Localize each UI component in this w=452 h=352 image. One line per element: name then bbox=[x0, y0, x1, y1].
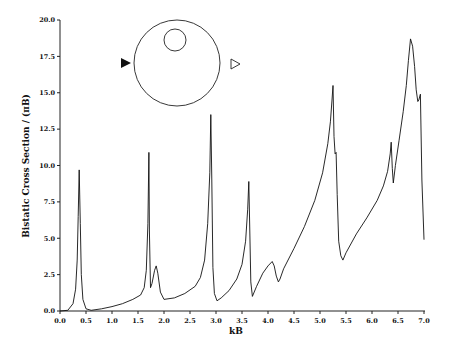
x-tick-label: 1.0 bbox=[106, 317, 118, 325]
y-tick-label: 12.5 bbox=[39, 125, 55, 133]
x-tick-label: 2.5 bbox=[184, 317, 196, 325]
x-tick-label: 0.5 bbox=[80, 317, 92, 325]
x-tick-label: 7.0 bbox=[418, 317, 430, 325]
incident-wave-marker-icon bbox=[121, 58, 131, 68]
outer-circle bbox=[134, 20, 220, 106]
x-tick-label: 6.5 bbox=[392, 317, 404, 325]
x-tick-label: 3.0 bbox=[210, 317, 222, 325]
chart: 0.02.55.07.510.012.515.017.520.0 0.00.51… bbox=[0, 0, 452, 352]
y-tick-label: 0.0 bbox=[44, 307, 56, 315]
inner-circle bbox=[164, 29, 186, 51]
y-tick-label: 17.5 bbox=[39, 53, 55, 61]
y-tick-label: 20.0 bbox=[39, 16, 55, 24]
x-tick-label: 4.5 bbox=[288, 317, 300, 325]
y-ticks: 0.02.55.07.510.012.515.017.520.0 bbox=[39, 16, 60, 315]
y-tick-label: 5.0 bbox=[44, 235, 56, 243]
scattered-wave-marker-icon bbox=[231, 59, 240, 69]
x-axis-label: kB bbox=[229, 326, 243, 336]
series-line bbox=[60, 39, 424, 311]
x-tick-label: 4.0 bbox=[262, 317, 274, 325]
x-tick-label: 5.0 bbox=[314, 317, 326, 325]
y-axis-label: Bistatic Cross Section / (πB) bbox=[21, 94, 31, 238]
y-tick-label: 10.0 bbox=[39, 162, 55, 170]
x-tick-label: 0.0 bbox=[54, 317, 66, 325]
y-tick-label: 2.5 bbox=[44, 271, 56, 279]
x-tick-label: 1.5 bbox=[132, 317, 144, 325]
x-tick-label: 5.5 bbox=[340, 317, 352, 325]
x-tick-label: 2.0 bbox=[158, 317, 170, 325]
x-tick-label: 6.0 bbox=[366, 317, 378, 325]
y-tick-label: 7.5 bbox=[44, 198, 56, 206]
x-ticks: 0.00.51.01.52.02.53.03.54.04.55.05.56.06… bbox=[54, 311, 430, 325]
y-tick-label: 15.0 bbox=[39, 89, 55, 97]
x-tick-label: 3.5 bbox=[236, 317, 248, 325]
inset-diagram bbox=[121, 20, 240, 106]
